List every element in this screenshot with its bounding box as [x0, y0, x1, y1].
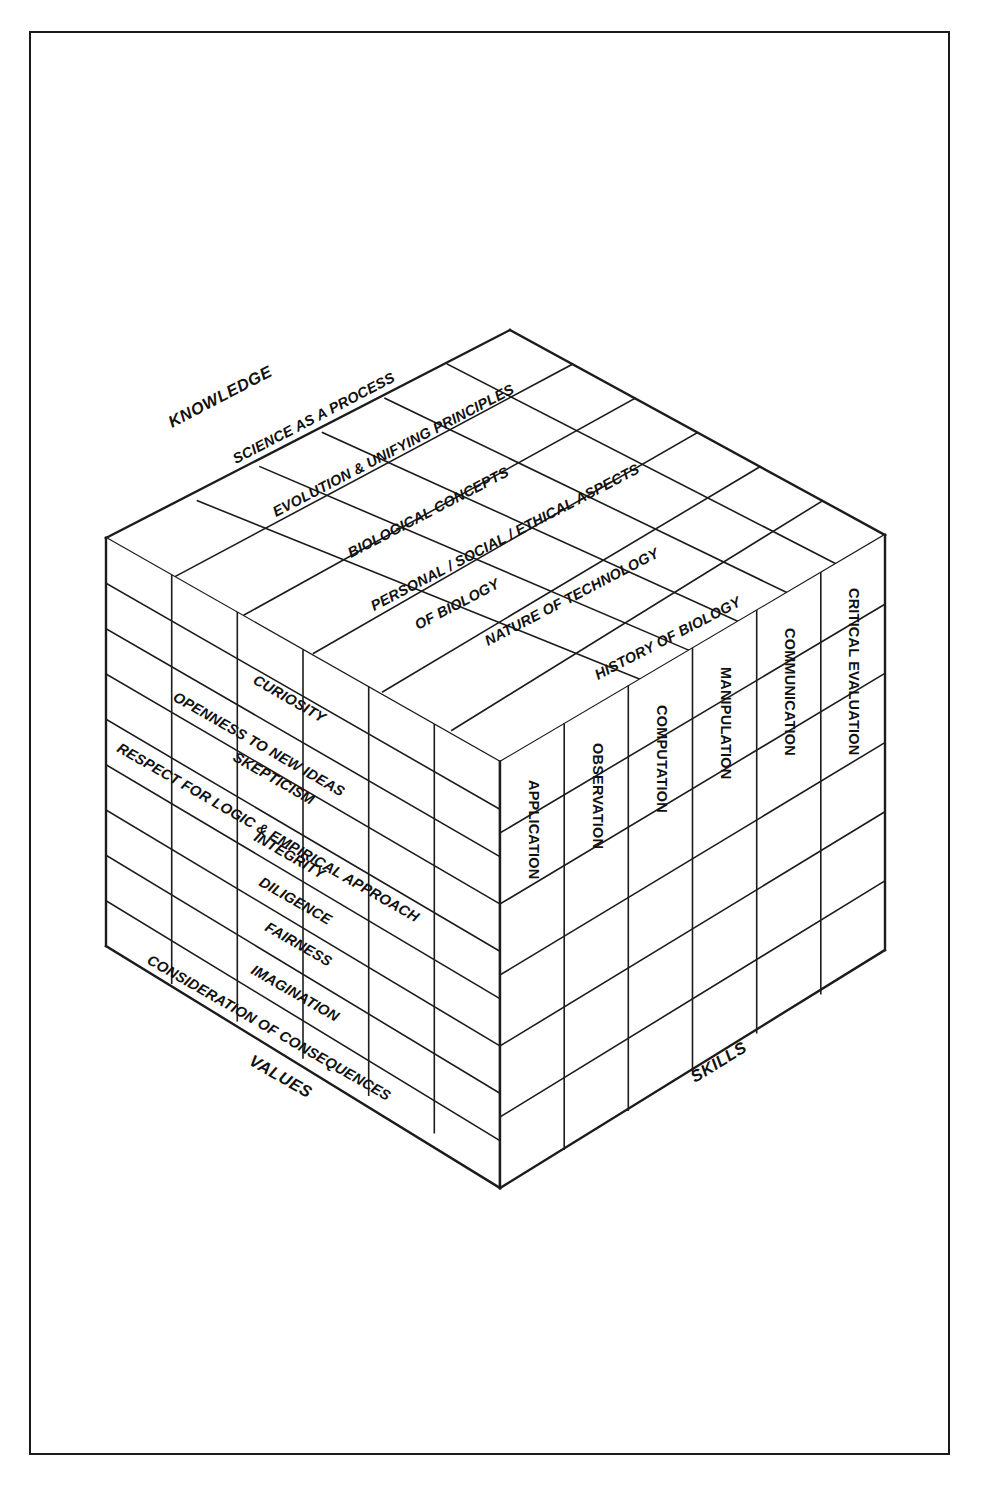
skill-item-1: APPLICATION: [526, 780, 542, 879]
skill-item-3: COMPUTATION: [654, 705, 670, 813]
skill-item-5: COMMUNICATION: [782, 628, 798, 756]
knowledge-axis-label: KNOWLEDGE: [165, 362, 275, 431]
skill-item-6: CRITICAL EVALUATION: [846, 588, 862, 755]
cube-diagram: KNOWLEDGE SCIENCE AS A PROCESS EVOLUTION…: [0, 0, 992, 1512]
skill-item-4: MANIPULATION: [718, 667, 734, 779]
skill-item-2: OBSERVATION: [590, 743, 606, 849]
page-canvas: KNOWLEDGE SCIENCE AS A PROCESS EVOLUTION…: [0, 0, 992, 1512]
